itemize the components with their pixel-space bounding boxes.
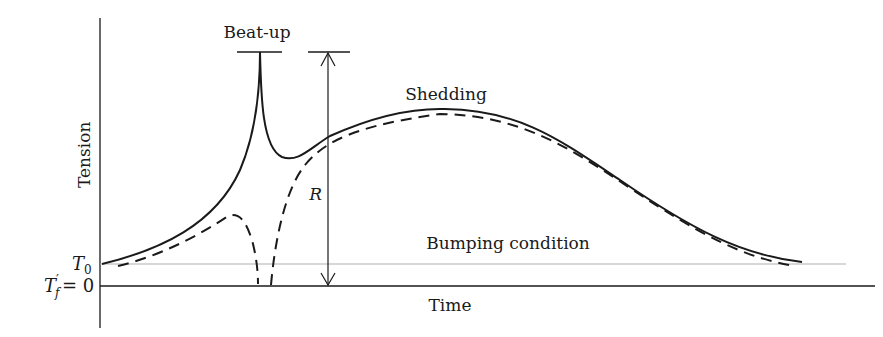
y-axis-label: Tension <box>74 122 94 188</box>
beatup-label: Beat-up <box>223 22 290 42</box>
svg-text:′: ′ <box>56 272 59 287</box>
tf-zero-label: T ′ f = 0 <box>44 272 94 300</box>
t0-label: T 0 <box>72 253 92 277</box>
bumping-condition-label: Bumping condition <box>426 233 590 253</box>
r-label: R <box>308 184 322 204</box>
warp-tension-dashed-curve-left <box>118 215 258 284</box>
shedding-label: Shedding <box>405 84 487 104</box>
svg-text:f: f <box>54 286 62 300</box>
x-axis-label: Time <box>429 295 472 315</box>
warp-tension-dashed-curve-right <box>271 114 795 285</box>
tension-time-diagram: Tension Time Beat-up R Shedding Bumping … <box>0 0 883 337</box>
svg-text:= 0: = 0 <box>62 275 94 296</box>
